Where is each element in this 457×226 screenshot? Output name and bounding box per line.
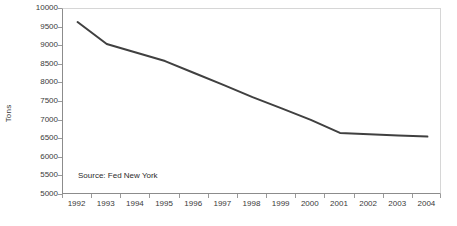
x-axis-tick-mark (62, 194, 63, 198)
x-axis-tick-mark (91, 194, 92, 198)
x-axis-tick-label: 1992 (68, 200, 86, 208)
y-axis-tick-label: 10000 (36, 4, 58, 12)
x-axis-tick-mark (354, 194, 355, 198)
x-axis-tick-label: 1999 (272, 200, 290, 208)
x-axis-tick-label: 1998 (243, 200, 261, 208)
x-axis-tick-label: 2004 (418, 200, 436, 208)
x-axis-tick-label: 2000 (301, 200, 319, 208)
y-axis-tick-label: 5000 (40, 190, 58, 198)
x-axis-tick-mark (208, 194, 209, 198)
x-axis-tick-labels: 1992199319941995199619971998199920002001… (62, 200, 441, 222)
x-axis-tick-label: 2002 (359, 200, 377, 208)
y-axis-tick-label: 9000 (40, 41, 58, 49)
y-axis-title-label: Tons (4, 104, 13, 122)
y-axis-tick-label: 8000 (40, 78, 58, 86)
y-axis-tick-label: 8500 (40, 60, 58, 68)
y-axis-tick-label: 7000 (40, 116, 58, 124)
x-axis-tick-mark (179, 194, 180, 198)
y-axis-tick-label: 5500 (40, 171, 58, 179)
x-axis-tick-label: 1997 (213, 200, 231, 208)
x-axis-tick-marks (62, 194, 441, 198)
x-axis-tick-label: 1996 (184, 200, 202, 208)
x-axis-tick-mark (266, 194, 267, 198)
y-axis-tick-label: 6000 (40, 153, 58, 161)
y-axis-tick-labels: 1000095009000850080007500700065006000550… (16, 8, 58, 194)
x-axis-tick-mark (295, 194, 296, 198)
x-axis-tick-mark (149, 194, 150, 198)
y-axis-tick-label: 6500 (40, 134, 58, 142)
y-axis-tick-label: 7500 (40, 97, 58, 105)
x-axis-tick-label: 1993 (97, 200, 115, 208)
y-axis-tick-label: 9500 (40, 23, 58, 31)
x-axis-tick-mark (237, 194, 238, 198)
x-axis-tick-label: 1994 (126, 200, 144, 208)
x-axis-tick-label: 1995 (155, 200, 173, 208)
x-axis-tick-mark (324, 194, 325, 198)
line-chart: Tons 10000950090008500800075007000650060… (0, 0, 457, 226)
x-axis-tick-mark (412, 194, 413, 198)
x-axis-tick-label: 2001 (330, 200, 348, 208)
data-line-svg (63, 9, 441, 194)
x-axis-tick-mark (440, 194, 441, 198)
plot-area (62, 8, 441, 194)
tons-series-line (78, 22, 428, 137)
x-axis-tick-mark (383, 194, 384, 198)
source-note: Source: Fed New York (78, 171, 158, 180)
x-axis-tick-label: 2003 (388, 200, 406, 208)
x-axis-tick-mark (120, 194, 121, 198)
